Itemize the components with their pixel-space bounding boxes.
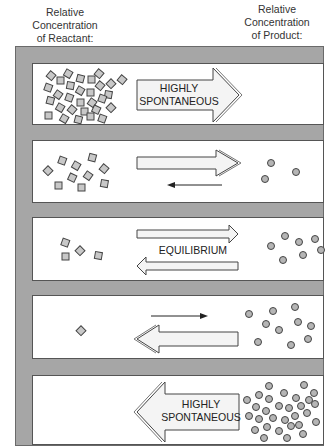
label-line: HIGHLY: [137, 82, 221, 95]
reactant-header-line: of Reactant:: [20, 32, 110, 45]
label-line: HIGHLY: [159, 398, 243, 411]
panel-equilibrium: EQUILIBRIUM: [32, 217, 324, 281]
panel-favors-reactants: [32, 295, 324, 359]
highly-spontaneous-label: HIGHLY SPONTANEOUS: [159, 398, 243, 424]
arrows: [33, 296, 325, 360]
label-line: SPONTANEOUS: [137, 95, 221, 108]
reactant-header: Relative Concentration of Reactant:: [20, 6, 110, 45]
reactant-header-line: Concentration: [20, 19, 110, 32]
product-header: Relative Concentration of Product:: [232, 3, 322, 42]
arrows: [33, 141, 325, 204]
label-line: SPONTANEOUS: [159, 411, 243, 424]
panel-favors-products: [32, 140, 324, 203]
product-header-line: Relative: [232, 3, 322, 16]
equilibrium-label: EQUILIBRIUM: [153, 244, 233, 257]
diagram-frame: HIGHLY SPONTANEOUS: [15, 46, 324, 446]
product-header-line: Concentration: [232, 16, 322, 29]
panel-highly-spontaneous-reverse: HIGHLY SPONTANEOUS: [32, 375, 324, 445]
highly-spontaneous-label: HIGHLY SPONTANEOUS: [137, 82, 221, 108]
panel-highly-spontaneous-forward: HIGHLY SPONTANEOUS: [32, 63, 324, 125]
reactant-header-line: Relative: [20, 6, 110, 19]
product-header-line: of Product:: [232, 29, 322, 42]
